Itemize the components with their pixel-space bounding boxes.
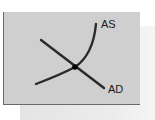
equilibrium-point xyxy=(72,64,78,70)
diagram-stage: AS AD xyxy=(0,0,155,120)
as-ad-plot: AS AD xyxy=(0,0,155,120)
ad-label: AD xyxy=(108,83,123,95)
as-label: AS xyxy=(101,18,116,30)
ad-curve xyxy=(41,40,104,88)
